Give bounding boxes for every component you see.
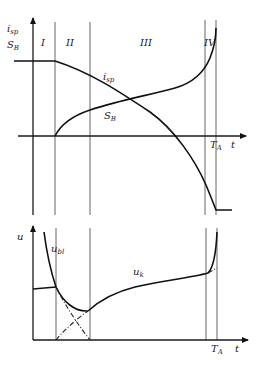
region-label-II: II <box>65 37 75 48</box>
curve-label-uk: uk <box>133 266 144 279</box>
curve-initial <box>33 287 56 289</box>
region-label-I: I <box>40 37 46 48</box>
diagram-canvas: isp SB I II III IV isp SB TA t u <box>0 0 257 366</box>
lower-tick-TA: TA <box>211 343 223 356</box>
lower-chart: u ubl uk TA t <box>17 226 248 356</box>
region-label-III: III <box>139 37 153 48</box>
upper-y-label-sb: SB <box>7 39 19 52</box>
upper-t-label: t <box>231 139 236 150</box>
upper-tick-TA: TA <box>210 139 222 152</box>
curve-uk <box>88 232 217 311</box>
upper-y-label-isp: isp <box>7 23 19 36</box>
curve-label-sb: SB <box>104 110 116 123</box>
curve-label-ubl: ubl <box>51 243 64 256</box>
curve-sb <box>55 28 216 136</box>
region-label-IV: IV <box>203 37 217 48</box>
lower-y-label-u: u <box>17 231 23 242</box>
upper-chart: isp SB I II III IV isp SB TA t <box>7 18 246 215</box>
curve-label-isp: isp <box>103 71 115 84</box>
lower-t-label: t <box>235 343 240 354</box>
